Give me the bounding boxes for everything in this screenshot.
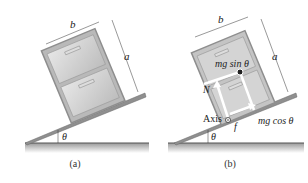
label-theta: θ <box>211 131 216 142</box>
center-of-mass-icon <box>237 69 243 75</box>
label-b: b <box>70 18 76 30</box>
label-theta: θ <box>62 131 67 142</box>
label-a: a <box>272 50 278 62</box>
panel-b: b a mg sin θ N Axis f mg cos θ θ (b) <box>168 13 304 170</box>
label-friction: f <box>234 121 238 132</box>
ground-shadow <box>25 143 149 153</box>
caption-a: (a) <box>69 158 80 170</box>
label-b: b <box>218 13 224 25</box>
label-axis: Axis <box>203 113 222 124</box>
panel-a: b a θ (a) <box>25 18 149 170</box>
label-mg-sin-theta: mg sin θ <box>215 58 249 69</box>
label-normal: N <box>202 84 211 95</box>
caption-b: (b) <box>224 158 236 170</box>
ground-shadow <box>168 143 304 153</box>
label-mg-cos-theta: mg cos θ <box>258 115 294 126</box>
label-a: a <box>124 50 130 62</box>
